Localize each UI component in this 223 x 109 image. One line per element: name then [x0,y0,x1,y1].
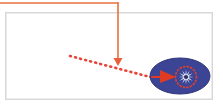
diagram-canvas [0,0,223,109]
diagram-svg [0,0,223,109]
starburst-core [184,75,188,79]
